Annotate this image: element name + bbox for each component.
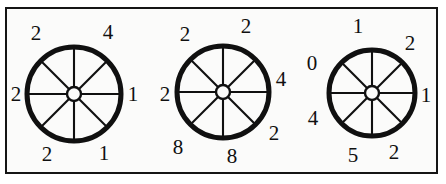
- wheel-left-label-upper-right: 4: [103, 22, 114, 43]
- wheel-right-label-upper-left: 0: [307, 53, 318, 74]
- wheel-middle-label-top-right: 2: [241, 16, 252, 37]
- wheel-left-label-lower-right: 1: [99, 143, 110, 164]
- wheel-left-label-left: 2: [11, 84, 22, 105]
- wheel-right-label-lower-right: 2: [389, 142, 400, 163]
- wheel-right-label-bottom-left: 5: [348, 145, 359, 166]
- wheel-middle-label-right: 4: [276, 69, 287, 90]
- figure-canvas: 24212122242881201452: [0, 0, 446, 184]
- wheel-left: [20, 40, 128, 148]
- wheel-right: [322, 43, 422, 143]
- wheel-left-label-lower-left: 2: [42, 144, 53, 165]
- wheel-right-label-top: 1: [353, 16, 364, 37]
- wheel-middle-label-bottom: 8: [227, 146, 238, 167]
- wheel-left-hub: [67, 87, 81, 101]
- wheel-right-hub: [365, 86, 379, 100]
- wheel-right-label-right: 1: [421, 85, 432, 106]
- wheel-middle-label-lower-right: 2: [269, 123, 280, 144]
- wheel-left-label-upper-left: 2: [31, 23, 42, 44]
- wheel-middle-label-lower-left: 8: [173, 137, 184, 158]
- wheel-right-label-lower-left: 4: [308, 108, 319, 129]
- wheel-left-label-right: 1: [128, 84, 139, 105]
- wheel-middle-hub: [216, 85, 230, 99]
- wheel-middle: [170, 39, 276, 145]
- wheel-right-label-upper-right: 2: [405, 33, 416, 54]
- wheel-middle-label-left: 2: [160, 84, 171, 105]
- wheel-middle-label-upper-left: 2: [180, 24, 191, 45]
